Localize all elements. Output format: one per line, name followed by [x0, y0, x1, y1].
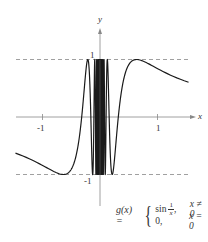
brace-icon: {	[144, 202, 151, 228]
y-tick-label-1: 1	[90, 51, 95, 60]
case1-expr: sin	[155, 204, 166, 214]
x-axis-label: x	[198, 112, 202, 121]
x-axis-arrow-icon	[190, 115, 196, 119]
case-row-2: 0, x = 0	[155, 215, 208, 227]
case2-condition: x = 0	[189, 211, 208, 231]
case2-expr: 0,	[155, 216, 189, 226]
x-tick-label-neg1: -1	[37, 124, 45, 133]
function-definition: g(x) = { sin 1 x , x ≠ 0 0, x = 0	[116, 202, 208, 228]
y-axis-arrow-icon	[98, 28, 102, 34]
x-tick-label-1: 1	[156, 124, 161, 133]
y-axis-label: y	[98, 15, 102, 24]
formula-lhs: g(x) =	[116, 204, 140, 226]
formula-cases: sin 1 x , x ≠ 0 0, x = 0	[155, 203, 208, 227]
y-tick-label-neg1: -1	[84, 177, 92, 186]
